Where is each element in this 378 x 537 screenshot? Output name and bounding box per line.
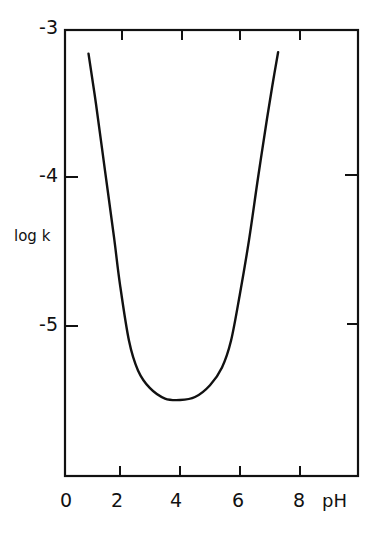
y-tick-label: -5: [14, 313, 58, 335]
chart-canvas: [0, 0, 378, 537]
y-tick-label: -3: [14, 16, 58, 38]
x-tick-label: 0: [51, 489, 81, 511]
x-axis-title: pH: [322, 490, 347, 511]
x-tick-label: 4: [161, 489, 191, 511]
x-axis-ticks: [120, 30, 300, 476]
plot-frame: [65, 30, 358, 476]
y-tick-label: -4: [14, 164, 58, 186]
x-tick-label: 2: [102, 489, 132, 511]
x-tick-label: 6: [223, 489, 253, 511]
data-curve: [89, 52, 279, 400]
y-axis-title: log k: [14, 227, 50, 245]
x-tick-label: 8: [284, 489, 314, 511]
